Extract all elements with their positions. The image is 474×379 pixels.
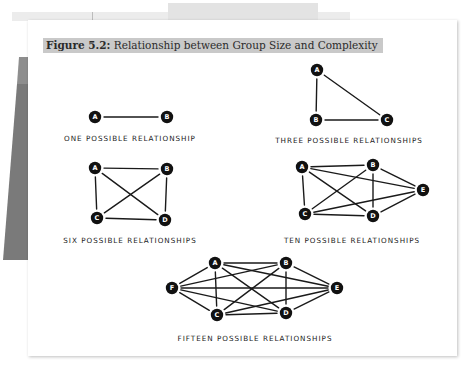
- node-label: A: [92, 113, 97, 121]
- node-d: D: [367, 210, 379, 222]
- node-b: B: [310, 114, 322, 126]
- diagram-caption: FIFTEEN POSSIBLE RELATIONSHIPS: [178, 334, 333, 343]
- node-d: D: [159, 214, 171, 226]
- edge-a-b: [316, 79, 317, 111]
- node-c: C: [299, 208, 311, 220]
- diagram-caption: ONE POSSIBLE RELATIONSHIP: [64, 134, 196, 143]
- node-label: B: [371, 161, 376, 169]
- diagram-caption: THREE POSSIBLE RELATIONSHIPS: [274, 136, 423, 145]
- diagram-three: ABCTHREE POSSIBLE RELATIONSHIPS: [274, 64, 423, 145]
- node-f: F: [166, 282, 178, 294]
- node-b: B: [280, 257, 292, 269]
- diagram-caption: TEN POSSIBLE RELATIONSHIPS: [283, 236, 420, 245]
- edge-d-f: [181, 290, 277, 311]
- edge-a-c: [95, 177, 96, 209]
- node-label: A: [299, 163, 304, 171]
- edge-c-d: [106, 218, 156, 219]
- edge-a-b: [311, 165, 364, 166]
- edge-c-e: [226, 290, 328, 313]
- edge-b-d: [165, 178, 166, 211]
- node-label: B: [314, 116, 319, 124]
- node-label: B: [165, 113, 170, 121]
- node-label: A: [92, 164, 97, 172]
- node-a: A: [311, 64, 323, 76]
- node-b: B: [367, 159, 379, 171]
- diagram-two: ABONE POSSIBLE RELATIONSHIP: [64, 111, 196, 143]
- node-label: C: [95, 214, 100, 222]
- edge-a-c: [303, 176, 305, 205]
- node-label: D: [162, 216, 168, 224]
- node-b: B: [161, 163, 173, 175]
- edge-a-c: [215, 272, 216, 306]
- node-label: E: [421, 186, 425, 194]
- node-label: F: [170, 284, 174, 292]
- node-label: D: [283, 309, 289, 317]
- edge-c-d: [314, 214, 364, 215]
- node-e: E: [331, 282, 343, 294]
- diagram-six: ABCDEFFIFTEEN POSSIBLE RELATIONSHIPS: [166, 257, 343, 343]
- node-label: A: [212, 259, 217, 267]
- node-c: C: [211, 309, 223, 321]
- node-c: C: [381, 114, 393, 126]
- diagram-caption: SIX POSSIBLE RELATIONSHIPS: [63, 236, 196, 245]
- edge-b-e: [294, 267, 329, 284]
- node-label: B: [165, 165, 170, 173]
- node-a: A: [296, 161, 308, 173]
- edge-d-e: [294, 292, 329, 309]
- node-e: E: [417, 184, 429, 196]
- node-d: D: [280, 307, 292, 319]
- node-a: A: [89, 162, 101, 174]
- diagram-five: ABCDETEN POSSIBLE RELATIONSHIPS: [283, 159, 429, 245]
- node-c: C: [91, 212, 103, 224]
- diagram-four: ABCDSIX POSSIBLE RELATIONSHIPS: [63, 162, 196, 245]
- node-a: A: [209, 257, 221, 269]
- node-label: C: [215, 311, 220, 319]
- relationship-diagrams: ABONE POSSIBLE RELATIONSHIPABCTHREE POSS…: [0, 0, 474, 379]
- node-label: A: [314, 66, 319, 74]
- node-label: B: [284, 259, 289, 267]
- edge-b-c: [104, 174, 159, 213]
- node-label: C: [303, 210, 308, 218]
- edge-b-f: [181, 265, 277, 286]
- node-label: E: [335, 284, 339, 292]
- node-label: D: [370, 212, 376, 220]
- edge-a-c: [324, 75, 379, 115]
- node-a: A: [89, 111, 101, 123]
- node-b: B: [161, 111, 173, 123]
- edge-c-d: [226, 313, 277, 314]
- node-label: C: [385, 116, 390, 124]
- edge-a-b: [104, 168, 158, 169]
